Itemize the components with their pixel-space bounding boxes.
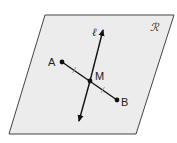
- label-M: M: [95, 70, 104, 82]
- label-A: A: [48, 56, 56, 68]
- label-B: B: [121, 96, 128, 108]
- label-plane-R: ℛ: [150, 21, 160, 34]
- point-B: [115, 98, 120, 103]
- point-M: [88, 79, 93, 84]
- perpendicular-bisector-diagram: A M B ℓ ℛ: [0, 0, 177, 143]
- point-A: [60, 60, 65, 65]
- label-line-l: ℓ: [92, 26, 97, 39]
